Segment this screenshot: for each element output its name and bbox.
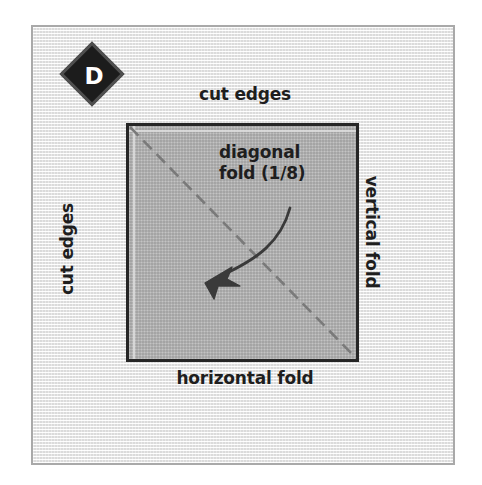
paper-inner-rule-top	[129, 130, 356, 132]
panel-badge-diamond: D	[66, 48, 122, 104]
panel-badge-letter: D	[66, 48, 122, 104]
label-vertical-fold: vertical fold	[362, 172, 382, 292]
label-cut-edges-left: cut edges	[57, 189, 77, 309]
label-diagonal-fold-line2: fold (1/8)	[219, 163, 369, 184]
figure-container: cut edges cut edges vertical fold horizo…	[0, 0, 482, 485]
label-horizontal-fold: horizontal fold	[33, 368, 455, 388]
figure-panel: cut edges cut edges vertical fold horizo…	[31, 25, 455, 465]
paper-inner-rule-left	[133, 126, 135, 359]
label-diagonal-fold: diagonal fold (1/8)	[219, 142, 369, 183]
label-diagonal-fold-line1: diagonal	[219, 142, 369, 163]
